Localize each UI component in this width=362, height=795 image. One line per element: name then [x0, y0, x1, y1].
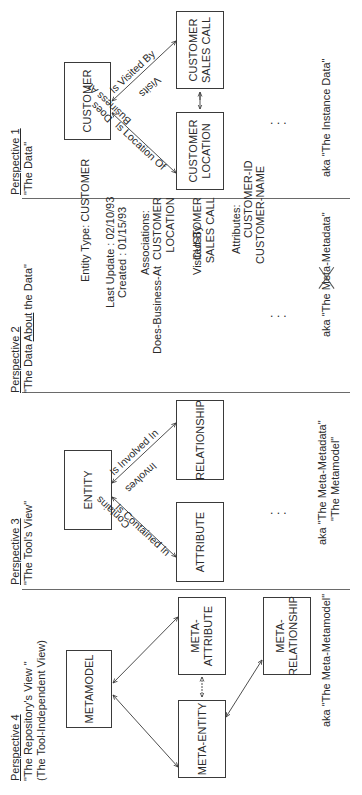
association-1-name: Does-Business-At — [151, 266, 164, 354]
box-metamodel: METAMODEL — [66, 650, 112, 728]
four-perspectives-diagram: Perspective 4 "The Repository's View " (… — [0, 0, 362, 795]
perspective-1-aka: aka "The Instance Data" — [320, 59, 333, 178]
aka-suffix: -Metadata" — [320, 212, 332, 265]
perspective-3-aka: aka "The Meta-Metadata" "The Metamodel" — [316, 420, 342, 545]
perspective-2-aka: aka "The Meta-Metadata" — [320, 212, 333, 337]
label-is-location-of: Is Location Of — [113, 119, 169, 172]
location-line1: CUSTOMER — [187, 120, 199, 183]
box-meta-entity: META-ENTITY — [178, 700, 226, 778]
perspective-3-title: Perspective 3 — [9, 501, 22, 585]
box-customer-sales-call-label: CUSTOMER SALES CALL — [187, 17, 213, 83]
association-1-target-line1: CUSTOMER — [151, 197, 164, 260]
box-attribute-label: ATTRIBUTE — [194, 512, 207, 572]
label-involves: Involves — [123, 460, 159, 495]
perspective-1-subtitle: "The Data" — [22, 128, 35, 195]
subtitle-suffix: the Data" — [22, 264, 34, 313]
created-date: Created : 01/15/93 — [116, 207, 129, 298]
separator-p3-p2 — [22, 392, 350, 393]
sales-call-line1: CUSTOMER — [187, 19, 199, 82]
struck-out-meta: Meta — [320, 266, 332, 290]
aka-prefix: aka "The — [320, 290, 332, 337]
perspective-2-header: Perspective 2 "The Data About the Data" — [9, 264, 35, 393]
meta-attribute-line1: META- — [189, 619, 201, 652]
association-2-target-line1: CUSTOMER — [191, 197, 204, 268]
subtitle-prefix: "The Data — [22, 341, 34, 393]
association-1-target-line2: LOCATION — [164, 197, 177, 260]
perspective-3-header: Perspective 3 "The Tool's View" — [9, 501, 35, 585]
entity-type: Entity Type: CUSTOMER — [79, 159, 92, 282]
perspective-3-aka-line2: "The Metamodel" — [329, 420, 342, 545]
box-entity: ENTITY — [64, 450, 112, 530]
perspective-1-title: Perspective 1 — [9, 128, 22, 195]
box-customer-sales-call: CUSTOMER SALES CALL — [176, 11, 224, 89]
location-line2: LOCATION — [200, 123, 212, 178]
box-relationship: RELATIONSHIP — [176, 400, 224, 480]
box-metamodel-label: METAMODEL — [83, 655, 96, 724]
meta-relationship-line2: RELATIONSHIP — [287, 596, 299, 676]
association-2-target-line2: SALES CALL — [204, 197, 217, 268]
box-customer-location: CUSTOMER LOCATION — [176, 112, 224, 190]
separator-p2-p1 — [22, 198, 350, 199]
box-attribute: ATTRIBUTE — [176, 502, 224, 582]
meta-relationship-line1: META- — [274, 619, 286, 652]
perspective-4-title: Perspective 4 — [9, 640, 22, 781]
perspective-4-subtitle-2: (The Tool-Independent View) — [35, 640, 48, 781]
perspective-4-aka: aka "The Meta-Metamodel" — [320, 594, 333, 727]
box-meta-entity-label: META-ENTITY — [196, 703, 209, 776]
association-2-target: CUSTOMER SALES CALL — [191, 197, 217, 268]
box-meta-attribute-label: META- ATTRIBUTE — [189, 606, 215, 666]
perspective-3-subtitle: "The Tool's View" — [22, 501, 35, 585]
perspective-3-ellipsis: . . . — [270, 503, 287, 517]
perspective-1-ellipsis: . . . — [270, 113, 287, 127]
box-entity-label: ENTITY — [82, 470, 95, 509]
perspective-2-subtitle: "The Data About the Data" — [22, 264, 35, 393]
box-meta-relationship-label: META- RELATIONSHIP — [274, 596, 300, 676]
attribute-2: CUSTOMER-NAME — [254, 166, 267, 264]
perspective-4-header: Perspective 4 "The Repository's View " (… — [9, 640, 48, 781]
box-customer-location-label: CUSTOMER LOCATION — [187, 120, 213, 183]
subtitle-underlined: About — [22, 313, 34, 342]
sales-call-line2: SALES CALL — [200, 17, 212, 83]
box-meta-relationship: META- RELATIONSHIP — [263, 597, 311, 675]
perspective-4-subtitle: "The Repository's View " — [22, 640, 35, 781]
association-1-target: CUSTOMER LOCATION — [151, 197, 177, 260]
meta-attribute-line2: ATTRIBUTE — [202, 606, 214, 666]
perspective-1-header: Perspective 1 "The Data" — [9, 128, 35, 195]
label-visits: Visits — [137, 74, 163, 100]
box-relationship-label: RELATIONSHIP — [194, 400, 207, 480]
perspective-3-aka-line1: aka "The Meta-Metadata" — [316, 420, 329, 545]
box-meta-attribute: META- ATTRIBUTE — [178, 597, 226, 675]
perspective-2-title: Perspective 2 — [9, 264, 22, 393]
separator-p4-p3 — [22, 589, 350, 590]
perspective-2-ellipsis: . . . — [270, 306, 287, 320]
